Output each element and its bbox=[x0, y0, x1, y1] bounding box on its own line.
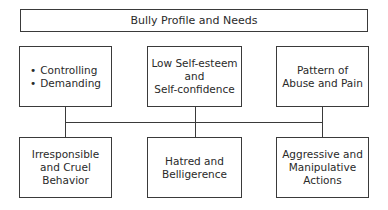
box-hatred-belligerence: Hatred and Belligerence bbox=[147, 137, 242, 198]
bullet-item: Demanding bbox=[30, 77, 101, 90]
box-irresponsible-cruel: Irresponsible and Cruel Behavior bbox=[19, 137, 112, 198]
box-aggressive-manipulative: Aggressive and Manipulative Actions bbox=[276, 137, 369, 198]
title-box: Bully Profile and Needs bbox=[20, 9, 368, 32]
diagram-title: Bully Profile and Needs bbox=[130, 14, 257, 27]
box-text: Aggressive and Manipulative Actions bbox=[282, 148, 363, 187]
bullet-item: Controlling bbox=[30, 64, 101, 77]
box-text: Hatred and Belligerence bbox=[162, 155, 227, 181]
box-text: Pattern of Abuse and Pain bbox=[282, 64, 363, 90]
box-text: Irresponsible and Cruel Behavior bbox=[32, 148, 99, 187]
bullet-list: Controlling Demanding bbox=[30, 64, 101, 90]
box-text: Low Self-esteem and Self-confidence bbox=[151, 57, 237, 96]
box-low-self-esteem: Low Self-esteem and Self-confidence bbox=[147, 46, 242, 107]
box-controlling-demanding: Controlling Demanding bbox=[19, 46, 112, 107]
box-pattern-of-abuse: Pattern of Abuse and Pain bbox=[276, 46, 369, 107]
